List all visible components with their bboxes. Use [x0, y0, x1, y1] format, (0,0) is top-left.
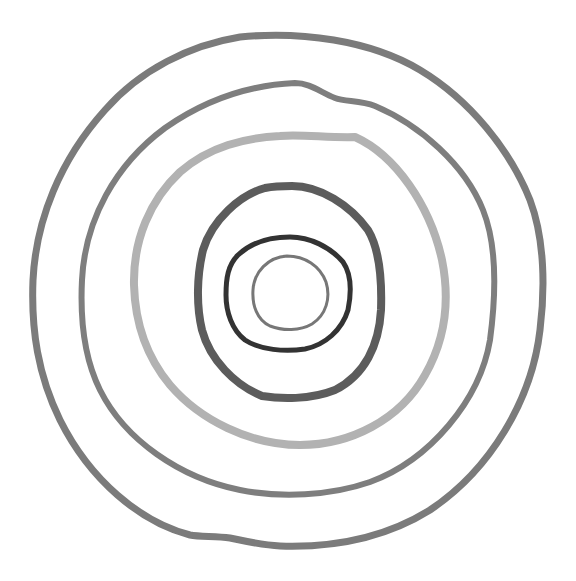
- ring-2: [82, 83, 495, 495]
- concentric-rings-figure: [0, 0, 576, 581]
- ring-1-outer: [33, 35, 543, 546]
- ring-5-dark: [226, 237, 350, 350]
- rings-drawing: [0, 0, 576, 581]
- ring-6-inner: [253, 256, 328, 330]
